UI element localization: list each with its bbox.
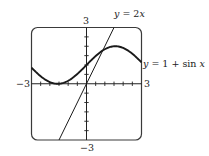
line-annotation: y = 2x (113, 8, 145, 19)
graph-figure: 3 −3 −3 3 y = 2x y = 1 + sin x (0, 0, 209, 156)
y-max-label: 3 (83, 15, 89, 26)
x-min-label: −3 (16, 78, 30, 89)
y-min-label: −3 (80, 142, 94, 153)
sine-annotation: y = 1 + sin x (142, 58, 205, 69)
x-max-label: 3 (144, 78, 150, 89)
